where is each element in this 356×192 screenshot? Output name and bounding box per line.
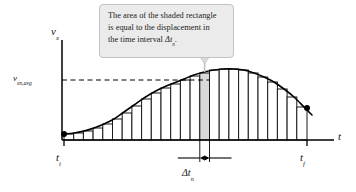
bar (83, 131, 93, 140)
bar (180, 80, 190, 140)
interval-dimension-arrows (178, 140, 232, 162)
bar (103, 124, 113, 140)
interval-label-symbol: Δt (182, 167, 191, 178)
bar (122, 113, 132, 140)
tick-label-final: tf (300, 152, 305, 163)
bar (258, 77, 268, 140)
interval-label: Δtn (182, 168, 194, 178)
tick-label-initial: ti (56, 152, 61, 163)
bar (161, 88, 171, 140)
callout-period: . (175, 35, 177, 44)
tick-label-final-subscript: f (303, 160, 305, 167)
callout-line-2: is equal to the displacement in (108, 22, 226, 34)
callout-delta-t-subscript: n (172, 41, 175, 47)
bar (239, 70, 249, 140)
dimension-arrow-head (205, 155, 210, 160)
bar (132, 106, 142, 140)
interval-label-subscript: n (191, 175, 194, 182)
bar (268, 82, 278, 140)
average-velocity-subscript: xn,avg (17, 80, 32, 86)
bar (93, 128, 103, 140)
endpoint-dot-initial (61, 131, 67, 137)
bar (219, 69, 229, 140)
bar (287, 97, 297, 140)
bar (142, 99, 152, 140)
bar (297, 107, 307, 140)
callout-tail-triangle (200, 57, 209, 64)
endpoint-dot-final (304, 105, 310, 111)
callout-line-3-text: the time interval (108, 35, 165, 44)
average-velocity-label: vxn,avg (13, 74, 32, 83)
bar (210, 70, 220, 140)
callout-box: The area of the shaded rectangle is equa… (99, 4, 234, 58)
callout-pointer (200, 57, 209, 72)
bar (171, 84, 181, 140)
bar (229, 69, 239, 140)
y-axis-label-subscript: x (56, 34, 59, 41)
bar (277, 89, 287, 140)
shaded-rectangle (200, 73, 210, 140)
tick-label-initial-subscript: i (59, 160, 61, 167)
bar (113, 119, 123, 140)
dimension-arrow-head (200, 155, 205, 160)
callout-line-1: The area of the shaded rectangle (108, 10, 226, 22)
bar (151, 93, 161, 140)
y-axis-label: vx (51, 26, 59, 37)
x-axis-label: t (338, 131, 341, 142)
bar (248, 73, 258, 140)
bar (74, 133, 84, 140)
bar (190, 76, 200, 140)
callout-line-3: the time interval Δtn. (108, 34, 226, 46)
shaded-bar (200, 73, 210, 140)
